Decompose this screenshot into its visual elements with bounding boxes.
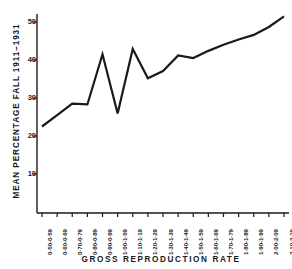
x-tick-label: 1·10-1·19 (135, 213, 144, 255)
x-tick-label: 1·90-1·99 (256, 213, 265, 255)
x-tick-label: 0·50-0·59 (45, 213, 54, 255)
x-tick-label: 0·90-0·99 (105, 213, 114, 255)
x-tick-label: 2·00-2·09 (271, 213, 280, 255)
x-tick-label: 1·40-1·49 (181, 213, 190, 255)
x-tick-label: 1·50-1·59 (196, 213, 205, 255)
x-tick-label: 1·70-1·79 (226, 213, 235, 255)
x-tick-label: 0·70-0·79 (75, 213, 84, 255)
chart-figure: MEAN PERCENTAGE FALL 1911–1931 10 20 30 … (0, 0, 292, 269)
data-series-line (42, 16, 284, 126)
x-tick-label: 1·80-1·89 (241, 213, 250, 255)
x-tick-label: 1·20-1·29 (150, 213, 159, 255)
x-tick-label: 1·30-1·39 (166, 213, 175, 255)
x-axis-tick-labels: 0·50-0·590·60-0·690·70-0·790·80-0·890·90… (0, 214, 292, 256)
x-tick-label: 0·80-0·89 (90, 213, 99, 255)
x-tick-label: 0·60-0·69 (60, 213, 69, 255)
x-axis-title: GROSS REPRODUCTION RATE (36, 255, 286, 264)
x-tick-label: 1·00-1·09 (120, 213, 129, 255)
x-tick-label: 1·60-1·69 (211, 213, 220, 255)
x-tick-label: 2·10-2·19 (287, 213, 292, 255)
